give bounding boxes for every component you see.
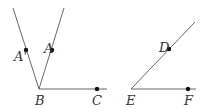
- point-f: [186, 87, 190, 91]
- point-c: [95, 87, 99, 91]
- label-b: B: [34, 93, 45, 108]
- label-f: F: [183, 93, 194, 108]
- angle-def-figure: D E F: [125, 22, 196, 108]
- label-c: C: [92, 93, 102, 108]
- angles-diagram: A' A B C D E F: [0, 0, 205, 109]
- angle-abc-figure: A' A B C: [13, 8, 107, 108]
- label-d: D: [158, 40, 170, 55]
- label-e: E: [125, 93, 136, 108]
- label-a: A: [43, 41, 53, 56]
- label-a-prime: A': [13, 49, 27, 64]
- ray-ed: [131, 22, 195, 89]
